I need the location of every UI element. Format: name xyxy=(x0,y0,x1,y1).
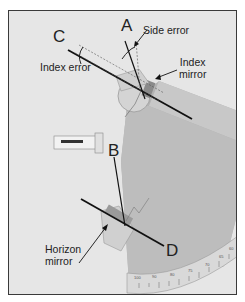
label-d: D xyxy=(166,242,178,259)
sextant-photo-frame: C A Side error Index error Index mirror … xyxy=(8,10,237,295)
side-error-arc xyxy=(122,47,135,59)
sextant-illustration xyxy=(9,11,237,295)
horizon-mirror-label: Horizon mirror xyxy=(45,243,81,267)
index-mirror-label-line1: Index xyxy=(179,56,206,68)
label-b: B xyxy=(108,142,119,159)
horizon-mirror-label-line1: Horizon xyxy=(45,243,81,255)
horizon-mirror-label-line2: mirror xyxy=(45,255,81,267)
scale-tick-label: 70 xyxy=(205,263,209,267)
scale-tick-label: 100 xyxy=(134,276,141,280)
label-a: A xyxy=(121,17,132,34)
scale-tick-label: 60 xyxy=(229,247,233,251)
index-mirror-label-line2: mirror xyxy=(179,68,206,80)
scale-tick-label: 75 xyxy=(188,269,192,273)
scale-tick-label: 65 xyxy=(219,255,223,259)
label-c: C xyxy=(53,28,65,45)
index-error-label: Index error xyxy=(40,61,91,73)
scale-tick-label: 80 xyxy=(170,273,174,277)
scale-tick-label: 90 xyxy=(152,275,156,279)
index-mirror-label: Index mirror xyxy=(179,56,206,80)
side-error-label: Side error xyxy=(143,24,189,36)
